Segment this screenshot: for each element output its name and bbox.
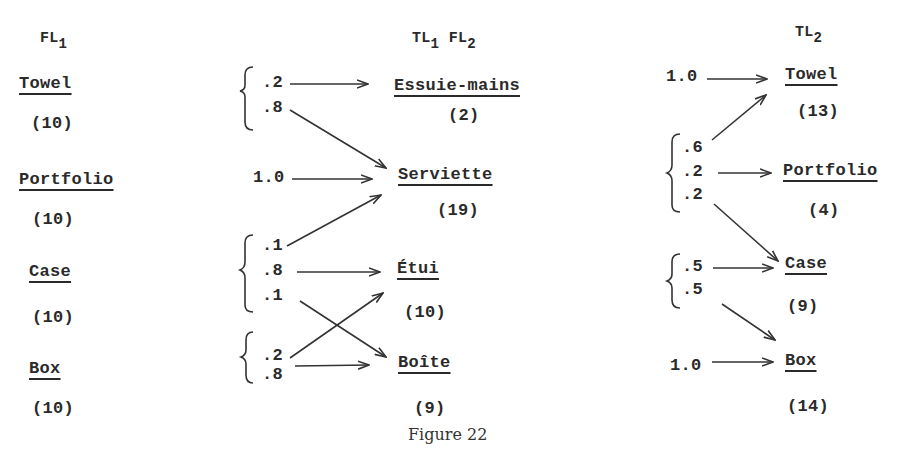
fl1-term-portfolio: Portfolio	[19, 170, 114, 189]
fl1-term-towel: Towel	[19, 74, 72, 93]
prob-box-etui: .2	[262, 346, 283, 365]
arrow-serviette-case	[714, 204, 778, 261]
column-header-tl2: TL2	[795, 24, 822, 46]
arrow-case-serviette	[287, 195, 381, 246]
tl1-count-boite: (9)	[414, 399, 446, 418]
prob-case-boite: .1	[262, 286, 283, 305]
brace-case	[240, 235, 253, 312]
tl1-count-essuie-mains: (2)	[448, 106, 480, 125]
prob-towel-serviette: .8	[262, 98, 283, 117]
prob-etui-box: .5	[682, 280, 703, 299]
fl1-count-box: (10)	[32, 399, 74, 418]
tl2-count-towel: (13)	[797, 102, 839, 121]
arrow-layer	[0, 0, 910, 469]
header-text: FL	[449, 30, 468, 47]
prob-portfolio-serviette: 1.0	[253, 168, 285, 187]
tl2-term-case: Case	[785, 254, 827, 273]
prob-towel-essuie: .2	[262, 73, 283, 92]
header-text: FL	[40, 30, 59, 47]
tl2-term-towel: Towel	[785, 65, 838, 84]
tl2-count-box: (14)	[787, 397, 829, 416]
prob-boite-box: 1.0	[670, 356, 702, 375]
tl2-term-box: Box	[785, 351, 817, 370]
brace-etui	[667, 254, 680, 308]
tl1-term-essuie-mains: Essuie-mains	[394, 76, 520, 95]
fl1-term-box: Box	[29, 359, 61, 378]
header-subscript: 1	[431, 36, 440, 52]
prob-serviette-towel: .6	[682, 138, 703, 157]
arrow-towel-serviette	[290, 110, 386, 168]
tl2-count-portfolio: (4)	[808, 201, 840, 220]
prob-box-boite: .8	[262, 365, 283, 384]
prob-serviette-case: .2	[682, 185, 703, 204]
brace-towel	[240, 67, 253, 130]
prob-case-etui: .8	[262, 261, 283, 280]
column-header-tl1-fl2: TL1 FL2	[412, 30, 476, 52]
header-subscript: 2	[467, 36, 476, 52]
tl1-count-etui: (10)	[404, 303, 446, 322]
header-text: TL	[412, 30, 431, 47]
prob-essuie-towel: 1.0	[666, 67, 698, 86]
fl1-count-portfolio: (10)	[32, 210, 74, 229]
header-subscript: 2	[814, 30, 823, 46]
header-text: TL	[795, 24, 814, 41]
arrow-box-boite	[295, 365, 369, 366]
tl2-count-case: (9)	[787, 297, 819, 316]
fl1-term-case: Case	[29, 262, 71, 281]
brace-serviette	[667, 134, 680, 212]
tl1-count-serviette: (19)	[437, 201, 479, 220]
figure-caption: Figure 22	[408, 425, 487, 444]
brace-box	[241, 332, 253, 383]
tl1-term-boite: Boîte	[398, 353, 451, 372]
prob-serviette-portfolio: .2	[682, 162, 703, 181]
tl1-term-serviette: Serviette	[398, 165, 493, 184]
fl1-count-case: (10)	[32, 308, 74, 327]
header-subscript: 1	[59, 36, 68, 52]
arrow-serviette-towel	[712, 95, 766, 140]
prob-case-serviette: .1	[262, 236, 283, 255]
column-header-fl1: FL1	[40, 30, 67, 52]
fl1-count-towel: (10)	[31, 114, 73, 133]
arrow-case-boite	[300, 301, 386, 357]
prob-etui-case: .5	[682, 257, 703, 276]
arrow-etui-box	[722, 304, 775, 340]
tl1-term-etui: Étui	[397, 259, 439, 278]
tl2-term-portfolio: Portfolio	[783, 161, 878, 180]
